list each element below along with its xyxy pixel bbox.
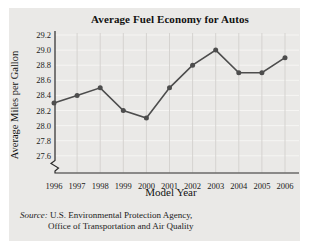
y-tick-label: 28.6 — [36, 75, 51, 85]
data-point — [144, 116, 149, 121]
data-point — [98, 85, 103, 90]
source-note: Source: U.S. Environmental Protection Ag… — [20, 210, 194, 232]
source-label: Source: — [20, 210, 48, 220]
x-tick-label: 2004 — [230, 181, 248, 191]
y-tick-label: 28.8 — [36, 60, 51, 70]
y-tick-label: 28.0 — [36, 121, 51, 131]
x-axis-label: Model Year — [111, 186, 231, 198]
data-point — [75, 93, 80, 98]
source-text-line1: U.S. Environmental Protection Agency, — [50, 210, 192, 220]
data-point — [190, 63, 195, 68]
y-tick-label: 27.8 — [36, 136, 51, 146]
x-tick-label: 2006 — [277, 181, 294, 191]
source-line-1: Source: U.S. Environmental Protection Ag… — [20, 210, 194, 221]
y-tick-label: 28.2 — [36, 106, 51, 116]
source-text-line2: Office of Transportation and Air Quality — [20, 221, 194, 232]
x-tick-label: 1997 — [69, 181, 86, 191]
y-tick-label: 27.6 — [36, 151, 51, 161]
data-point — [167, 85, 172, 90]
data-point — [121, 108, 126, 113]
data-point — [52, 100, 57, 105]
figure: Average Fuel Economy for Autos 29.229.02… — [0, 0, 315, 248]
data-point — [213, 48, 218, 53]
data-point — [259, 70, 264, 75]
x-tick-label: 1998 — [92, 181, 109, 191]
data-point — [283, 55, 288, 60]
x-tick-label: 1996 — [46, 181, 63, 191]
x-tick-label: 2005 — [253, 181, 270, 191]
y-tick-label: 28.4 — [36, 90, 52, 100]
data-point — [236, 70, 241, 75]
y-tick-label: 29.2 — [36, 30, 51, 40]
y-axis-label: Average Miles per Gallon — [9, 30, 23, 180]
y-tick-label: 29.0 — [36, 45, 51, 55]
